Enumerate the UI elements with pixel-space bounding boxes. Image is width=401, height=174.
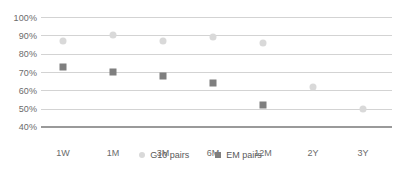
data-point-em-6m: [210, 80, 217, 87]
data-point-g10-12m: [260, 39, 267, 46]
data-point-g10-3m: [160, 37, 167, 44]
y-tick-label: 90%: [3, 31, 37, 41]
data-point-em-1w: [60, 63, 67, 70]
data-point-em-1m: [110, 69, 117, 76]
plot-area: 1W 1M 3M 6M 12M 2Y 3Y: [41, 17, 392, 127]
data-point-em-12m: [260, 102, 267, 109]
y-tick-label: 70%: [3, 68, 37, 78]
gridline-100: [41, 17, 392, 18]
y-tick-label: 60%: [3, 86, 37, 96]
data-point-em-3m: [160, 72, 167, 79]
y-tick-label: 80%: [3, 49, 37, 59]
data-point-g10-3y: [360, 105, 367, 112]
gridline-50: [41, 109, 392, 110]
legend-label-g10-pairs: G10 pairs: [150, 150, 189, 160]
gridline-80: [41, 54, 392, 55]
legend-circle-marker-icon: [139, 152, 145, 158]
scatter-chart: 100% 90% 80% 70% 60% 50% 40% 1W 1M: [0, 0, 401, 174]
legend-item-g10-pairs[interactable]: G10 pairs: [139, 150, 189, 160]
gridline-70: [41, 72, 392, 73]
y-tick-label: 50%: [3, 104, 37, 114]
data-point-g10-1m: [110, 32, 117, 39]
y-tick-label: 40%: [3, 122, 37, 132]
data-point-g10-2y: [310, 83, 317, 90]
y-tick-label: 100%: [3, 13, 37, 23]
legend-label-em-pairs: EM pairs: [226, 150, 262, 160]
x-axis-line: [41, 126, 392, 128]
data-point-g10-6m: [210, 34, 217, 41]
legend-item-em-pairs[interactable]: EM pairs: [215, 150, 262, 160]
gridline-90: [41, 35, 392, 36]
legend-square-marker-icon: [215, 152, 221, 158]
gridline-60: [41, 90, 392, 91]
data-point-g10-1w: [60, 37, 67, 44]
chart-legend: G10 pairs EM pairs: [0, 150, 401, 160]
